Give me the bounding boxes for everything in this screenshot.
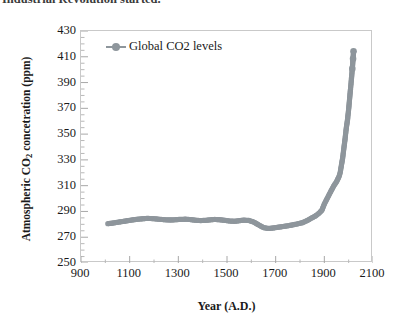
x-axis-title: Year (A.D.) — [80, 299, 373, 314]
y-axis-tick-label: 410 — [32, 50, 76, 62]
y-axis-tick-label: 270 — [32, 230, 76, 242]
y-axis-tick-label: 290 — [32, 204, 76, 216]
data-series-global-co2-levels — [105, 48, 357, 231]
x-axis-tick-label: 2100 — [342, 266, 394, 281]
legend-label: Global CO2 levels — [129, 39, 222, 54]
plot-area: Global CO2 levels — [80, 30, 372, 262]
y-axis-tick-label: 390 — [32, 76, 76, 88]
x-axis-tick-labels: 900110013001500170019002100 — [0, 266, 394, 286]
y-axis-tick-label: 350 — [32, 127, 76, 139]
legend-line-swatch — [106, 46, 126, 48]
y-axis-tick-label: 330 — [32, 153, 76, 165]
x-axis-major-ticks — [81, 256, 373, 263]
co2-chart-figure: Industrial Revolution started. Atmospher… — [0, 0, 394, 334]
legend-marker-icon — [112, 43, 120, 51]
y-axis-tick-label: 310 — [32, 179, 76, 191]
plot-svg — [81, 31, 373, 263]
legend: Global CO2 levels — [106, 39, 222, 54]
y-axis-tick-label: 430 — [32, 24, 76, 36]
y-axis-minor-ticks — [81, 37, 85, 256]
y-axis-tick-label: 370 — [32, 101, 76, 113]
figure-caption-text: Industrial Revolution started. — [2, 0, 161, 7]
